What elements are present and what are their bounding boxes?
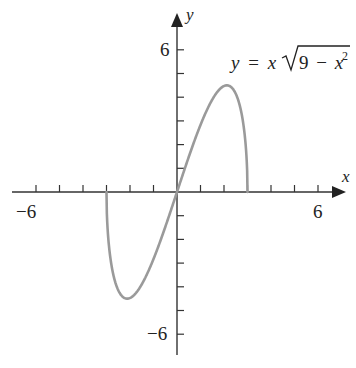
x-axis-label: x <box>341 167 350 186</box>
x-axis-arrow-icon <box>332 186 346 198</box>
y-tick-label-pos6: 6 <box>160 39 170 60</box>
x-tick-label-neg6: −6 <box>16 201 36 222</box>
function-graph: x y −6 6 6 −6 y = x 9 − x 2 <box>0 0 356 368</box>
axes <box>12 20 338 355</box>
svg-text:y = x: y = x <box>229 52 277 73</box>
svg-text:2: 2 <box>342 49 348 63</box>
x-tick-label-pos6: 6 <box>313 201 323 222</box>
equation-label: y = x 9 − x 2 <box>229 46 350 73</box>
svg-text:9 − x: 9 − x <box>299 52 344 73</box>
y-axis-label: y <box>184 5 194 24</box>
y-axis-arrow-icon <box>171 13 183 27</box>
y-tick-label-neg6: −6 <box>147 323 167 344</box>
